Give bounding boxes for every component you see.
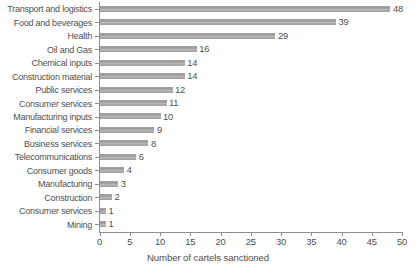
bar [100, 60, 185, 66]
bar [100, 181, 118, 187]
bar-row: Public services12 [0, 83, 416, 96]
x-axis-title: Number of cartels sanctioned [0, 252, 416, 263]
bar [100, 140, 148, 146]
bar-value-label: 9 [157, 124, 162, 135]
bar [100, 6, 390, 12]
category-label: Public services [4, 84, 92, 95]
bar-value-label: 14 [187, 70, 197, 81]
bar-value-label: 1 [109, 205, 114, 216]
bar-value-label: 39 [338, 16, 348, 27]
bar-row: Construction material14 [0, 70, 416, 83]
x-axis-tick-label: 40 [330, 236, 354, 247]
x-axis-tick-label: 20 [209, 236, 233, 247]
bar-value-label: 1 [109, 218, 114, 229]
bar-row: Construction2 [0, 191, 416, 204]
bar-row: Food and beverages39 [0, 16, 416, 29]
y-axis-line [99, 2, 100, 232]
bar-row: Business services8 [0, 137, 416, 150]
x-axis-tick-label: 10 [148, 236, 172, 247]
bar-row: Health29 [0, 29, 416, 42]
bar-row: Consumer services11 [0, 97, 416, 110]
bar-value-label: 48 [393, 3, 403, 14]
x-axis-tick-label: 5 [118, 236, 142, 247]
bar [100, 208, 106, 214]
category-label: Manufacturing inputs [4, 111, 92, 122]
bar-chart: Transport and logistics48Food and bevera… [0, 0, 416, 271]
bar [100, 19, 336, 25]
category-label: Food and beverages [4, 17, 92, 28]
bar-row: Transport and logistics48 [0, 3, 416, 16]
bar-value-label: 12 [175, 84, 185, 95]
category-label: Oil and Gas [4, 44, 92, 55]
category-label: Telecommunications [4, 151, 92, 162]
bar [100, 33, 275, 39]
bar-value-label: 14 [187, 57, 197, 68]
bar [100, 221, 106, 227]
category-label: Consumer services [4, 98, 92, 109]
bar-row: Consumer goods4 [0, 164, 416, 177]
bar-row: Financial services9 [0, 124, 416, 137]
x-axis-tick-label: 25 [239, 236, 263, 247]
category-label: Mining [4, 219, 92, 230]
category-label: Chemical inputs [4, 57, 92, 68]
bar-value-label: 29 [278, 30, 288, 41]
bar-value-label: 3 [121, 178, 126, 189]
category-label: Health [4, 30, 92, 41]
bar [100, 127, 154, 133]
bar [100, 113, 161, 119]
x-axis-tick-label: 15 [178, 236, 202, 247]
x-axis-tick-label: 50 [390, 236, 414, 247]
category-label: Construction [4, 192, 92, 203]
category-label: Construction material [4, 71, 92, 82]
bar [100, 87, 173, 93]
bar-value-label: 16 [199, 43, 209, 54]
plot-area: Transport and logistics48Food and bevera… [0, 0, 416, 271]
category-label: Consumer goods [4, 165, 92, 176]
bar-value-label: 10 [163, 111, 173, 122]
bar-rows: Transport and logistics48Food and bevera… [0, 0, 416, 232]
x-axis-tick-label: 35 [299, 236, 323, 247]
bar-row: Telecommunications6 [0, 150, 416, 163]
category-label: Financial services [4, 124, 92, 135]
bar [100, 73, 185, 79]
bar [100, 167, 124, 173]
bar-row: Consumer services1 [0, 204, 416, 217]
category-label: Manufacturing [4, 178, 92, 189]
bar [100, 154, 136, 160]
bar [100, 100, 167, 106]
bar-value-label: 11 [169, 97, 178, 108]
bar-row: Manufacturing inputs10 [0, 110, 416, 123]
bar-value-label: 8 [151, 138, 156, 149]
bar-row: Manufacturing3 [0, 177, 416, 190]
x-axis-tick-label: 45 [360, 236, 384, 247]
bar-value-label: 2 [115, 191, 120, 202]
bar [100, 194, 112, 200]
category-label: Transport and logistics [4, 3, 92, 14]
bar-row: Oil and Gas16 [0, 43, 416, 56]
category-label: Consumer services [4, 205, 92, 216]
bar-value-label: 6 [139, 151, 144, 162]
bar-value-label: 4 [127, 164, 132, 175]
bar-row: Chemical inputs14 [0, 56, 416, 69]
bar [100, 46, 197, 52]
bar-row: Mining1 [0, 218, 416, 231]
x-axis-tick-label: 30 [269, 236, 293, 247]
category-label: Business services [4, 138, 92, 149]
x-axis-tick-label: 0 [88, 236, 112, 247]
